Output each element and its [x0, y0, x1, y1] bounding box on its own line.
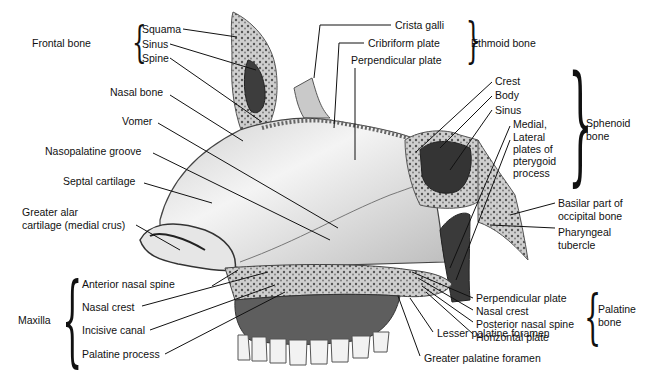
pterygoid-label-line4: pterygoid [513, 155, 556, 167]
sphenoid-body-label: Body [495, 89, 519, 101]
palatine-bone-label-line2: bone [598, 316, 621, 328]
nasal-bone-label: Nasal bone [110, 86, 163, 98]
sphenoid-bone-label-line2: bone [586, 130, 609, 142]
sphenoid-bone-label-line1: Sphenoid [586, 117, 630, 129]
lesser-palatine-foramen-label: Lesser palatine foramen [437, 327, 550, 339]
incisive-canal-label: Incisive canal [82, 324, 145, 336]
frontal-squama-label: Squama [142, 23, 181, 35]
maxilla-label: Maxilla [18, 314, 51, 326]
palatine-bone-label-line1: Palatine [598, 303, 636, 315]
palatine-perpendicular-plate-label: Perpendicular plate [476, 292, 566, 304]
palatine-process-label: Palatine process [82, 348, 160, 360]
vomer-label: Vomer [122, 115, 152, 127]
palatine-nasal-crest-label: Nasal crest [476, 305, 529, 317]
pharyngeal-tubercle-label-line2: tubercle [558, 239, 595, 251]
sphenoid-sinus-label: Sinus [495, 104, 521, 116]
frontal-bone-shape [231, 12, 277, 140]
greater-palatine-foramen-label: Greater palatine foramen [424, 352, 541, 364]
basilar-occipital-label-line2: occipital bone [558, 210, 622, 222]
pharyngeal-tubercle-label-line1: Pharyngeal [558, 226, 611, 238]
crista-galli-shape [294, 78, 330, 118]
nasopalatine-groove-label: Nasopalatine groove [45, 145, 141, 157]
septal-cartilage-label: Septal cartilage [63, 175, 135, 187]
maxilla-nasal-crest-label: Nasal crest [82, 301, 135, 313]
frontal-sinus-label: Sinus [142, 38, 168, 50]
anterior-nasal-spine-label: Anterior nasal spine [82, 278, 175, 290]
pterygoid-label-line2: Lateral [513, 131, 545, 143]
pterygoid-label-line1: Medial, [513, 118, 547, 130]
crista-galli-label: Crista galli [395, 19, 444, 31]
frontal-bone-label: Frontal bone [32, 37, 91, 49]
greater-alar-label-line1: Greater alar [22, 206, 78, 218]
pterygoid-label-line3: plates of [513, 143, 553, 155]
sphenoid-shape [405, 131, 482, 208]
greater-alar-label-line2: cartilage (medial crus) [22, 219, 125, 231]
ethmoid-bone-label: Ethmoid bone [471, 37, 536, 49]
pterygoid-label-line5: process [513, 167, 550, 179]
sphenoid-crest-label: Crest [495, 75, 520, 87]
maxilla-brace: { [62, 270, 82, 370]
perpendicular-plate-ethmoid-label: Perpendicular plate [351, 54, 441, 66]
anatomy-diagram: Frontal bone { Squama Sinus Spine Nasal … [0, 0, 654, 379]
basilar-occipital-label-line1: Basilar part of [558, 197, 623, 209]
cribriform-plate-label: Cribriform plate [368, 37, 440, 49]
frontal-spine-label: Spine [142, 52, 169, 64]
